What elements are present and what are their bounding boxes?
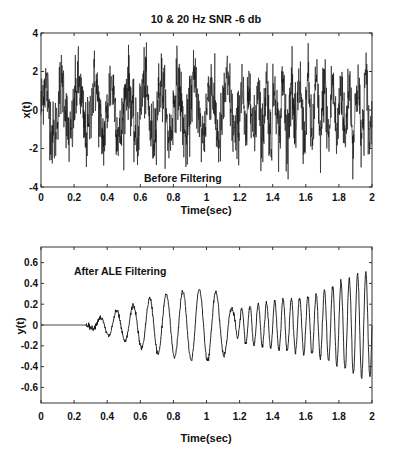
y-tick-label: 0.6	[24, 257, 38, 268]
y-tick-label: -0.2	[21, 340, 39, 351]
x-tick-label: 0.4	[100, 411, 114, 422]
top-plot-annotation: Before Filtering	[144, 172, 222, 184]
x-tick-label: 1	[204, 411, 210, 422]
y-tick-label: 0.2	[24, 299, 38, 310]
y-tick-label: -0.6	[21, 382, 39, 393]
x-tick-label: 1.2	[233, 411, 247, 422]
x-tick-label: 1.6	[299, 411, 313, 422]
top-plot-xlabel: Time(sec)	[180, 204, 231, 216]
top-plot-signal-line	[41, 42, 372, 179]
x-tick-label: 1.8	[332, 192, 346, 203]
y-tick-label: -4	[29, 182, 38, 193]
x-tick-label: 1.6	[299, 192, 313, 203]
top-plot-title: 10 & 20 Hz SNR -6 db	[151, 13, 262, 25]
x-tick-label: 0.8	[166, 192, 180, 203]
x-tick-label: 0.6	[133, 192, 147, 203]
y-tick-label: -0.4	[21, 361, 39, 372]
x-tick-label: 0.8	[166, 411, 180, 422]
y-tick-label: 0	[32, 105, 38, 116]
bottom-plot-xlabel: Time(sec)	[180, 432, 231, 444]
top-plot-ylabel: x(t)	[20, 101, 32, 118]
x-tick-label: 0	[38, 411, 44, 422]
top-plot: 10 & 20 Hz SNR -6 db 00.20.40.60.811.21.…	[20, 13, 375, 216]
x-tick-label: 1.8	[332, 411, 346, 422]
bottom-plot-signal-line	[41, 272, 372, 379]
x-tick-label: 0.2	[67, 192, 81, 203]
y-tick-label: 0	[32, 320, 38, 331]
figure: 10 & 20 Hz SNR -6 db 00.20.40.60.811.21.…	[0, 0, 395, 463]
y-tick-label: 0.4	[24, 278, 38, 289]
x-tick-label: 2	[369, 192, 375, 203]
x-tick-label: 0	[38, 192, 44, 203]
bottom-plot: 00.20.40.60.811.21.41.61.82 -0.6-0.4-0.2…	[14, 247, 375, 444]
y-tick-label: 2	[32, 66, 38, 77]
x-tick-label: 0.6	[133, 411, 147, 422]
x-tick-label: 0.2	[67, 411, 81, 422]
x-tick-label: 1.2	[233, 192, 247, 203]
x-tick-label: 2	[369, 411, 375, 422]
x-tick-label: 1	[204, 192, 210, 203]
bottom-plot-annotation: After ALE Filtering	[74, 265, 166, 277]
x-tick-label: 0.4	[100, 192, 114, 203]
y-tick-label: -2	[29, 143, 38, 154]
x-tick-label: 1.4	[266, 411, 280, 422]
y-tick-label: 4	[32, 28, 38, 39]
bottom-plot-ylabel: y(t)	[14, 317, 26, 334]
x-tick-label: 1.4	[266, 192, 280, 203]
